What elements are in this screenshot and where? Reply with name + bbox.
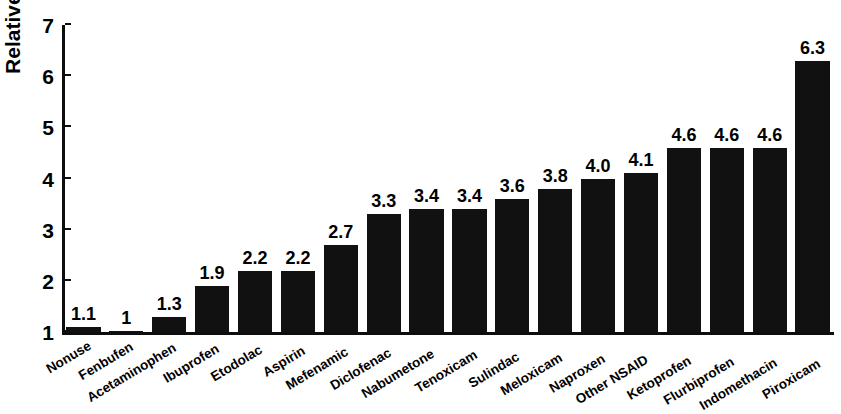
bar: [281, 271, 315, 332]
bar: [538, 189, 572, 332]
bar: [667, 148, 701, 332]
y-tick-label: 1: [26, 322, 54, 343]
bar: [66, 327, 100, 332]
bars-container: 1.111.31.92.22.22.73.33.43.43.63.84.04.1…: [62, 25, 834, 335]
bar-value-label: 2.2: [272, 249, 323, 267]
bar: [495, 199, 529, 332]
bar-value-label: 1.9: [187, 264, 238, 282]
y-tick-label: 7: [26, 15, 54, 36]
y-tick-label: 4: [26, 169, 54, 190]
y-tick-label: 3: [26, 220, 54, 241]
y-axis-title: Relative risk: [0, 0, 26, 122]
bar-value-label: 6.3: [787, 39, 838, 57]
bar: [624, 173, 658, 332]
bar: [324, 245, 358, 332]
y-tick-label: 6: [26, 66, 54, 87]
bar: [238, 271, 272, 332]
y-tick-label: 5: [26, 117, 54, 138]
bar: [795, 61, 829, 332]
bar: [452, 209, 486, 332]
y-tick-label: 2: [26, 271, 54, 292]
bar: [367, 214, 401, 332]
bar: [409, 209, 443, 332]
bar: [581, 179, 615, 333]
bar-value-label: 4.1: [616, 151, 667, 169]
bar-value-label: 1.3: [144, 295, 195, 313]
bar: [152, 317, 186, 332]
bar: [195, 286, 229, 332]
x-axis-labels: NonuseFenbufenAcetaminophenIbuprofenEtod…: [62, 338, 841, 403]
bar-value-label: 4.6: [744, 126, 795, 144]
bar-value-label: 2.7: [315, 223, 366, 241]
bar: [109, 331, 143, 332]
bar: [753, 148, 787, 332]
bar: [710, 148, 744, 332]
